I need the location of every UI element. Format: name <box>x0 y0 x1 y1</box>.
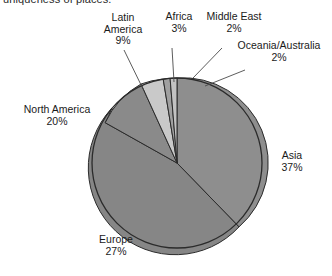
pie-label-asia-name: Asia <box>268 150 316 162</box>
pie-label-oceania-australia-percent: 2% <box>228 52 330 64</box>
pie-label-latin-america-percent: 9% <box>92 35 154 47</box>
leader-line-oceania-australia <box>205 70 245 86</box>
pie-label-oceania-australia-name: Oceania/Australia <box>228 40 330 52</box>
pie-label-europe-name: Europe <box>80 234 152 246</box>
pie-label-middle-east-percent: 2% <box>196 23 272 35</box>
pie-label-latin-america-word1: Latin <box>92 12 154 24</box>
chart-canvas: uniqueness of places. <box>0 0 332 276</box>
leader-line-middle-east <box>193 48 222 78</box>
pie-label-asia: Asia 37% <box>268 150 316 173</box>
pie-label-europe-percent: 27% <box>80 246 152 258</box>
pie-label-middle-east: Middle East 2% <box>196 11 272 34</box>
leader-line-latin-america <box>124 50 144 91</box>
pie-label-oceania-australia: Oceania/Australia 2% <box>228 40 330 63</box>
pie-label-middle-east-name: Middle East <box>196 11 272 23</box>
pie-label-europe: Europe 27% <box>80 234 152 257</box>
pie-label-asia-percent: 37% <box>268 162 316 174</box>
pie-label-north-america-percent: 20% <box>8 116 106 128</box>
leader-line-africa <box>172 48 174 82</box>
pie-label-latin-america: LatinAmerica 9% <box>92 12 154 47</box>
pie-label-north-america: North America 20% <box>8 104 106 127</box>
pie-label-latin-america-name-line1: LatinAmerica <box>92 12 154 35</box>
pie-label-north-america-name: North America <box>8 104 106 116</box>
